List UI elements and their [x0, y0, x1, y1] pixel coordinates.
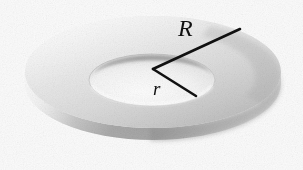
annulus-drawing [0, 0, 303, 170]
outer-radius-label: R [178, 16, 193, 40]
inner-radius-label: r [153, 79, 160, 98]
annulus-figure: R r [0, 0, 303, 170]
